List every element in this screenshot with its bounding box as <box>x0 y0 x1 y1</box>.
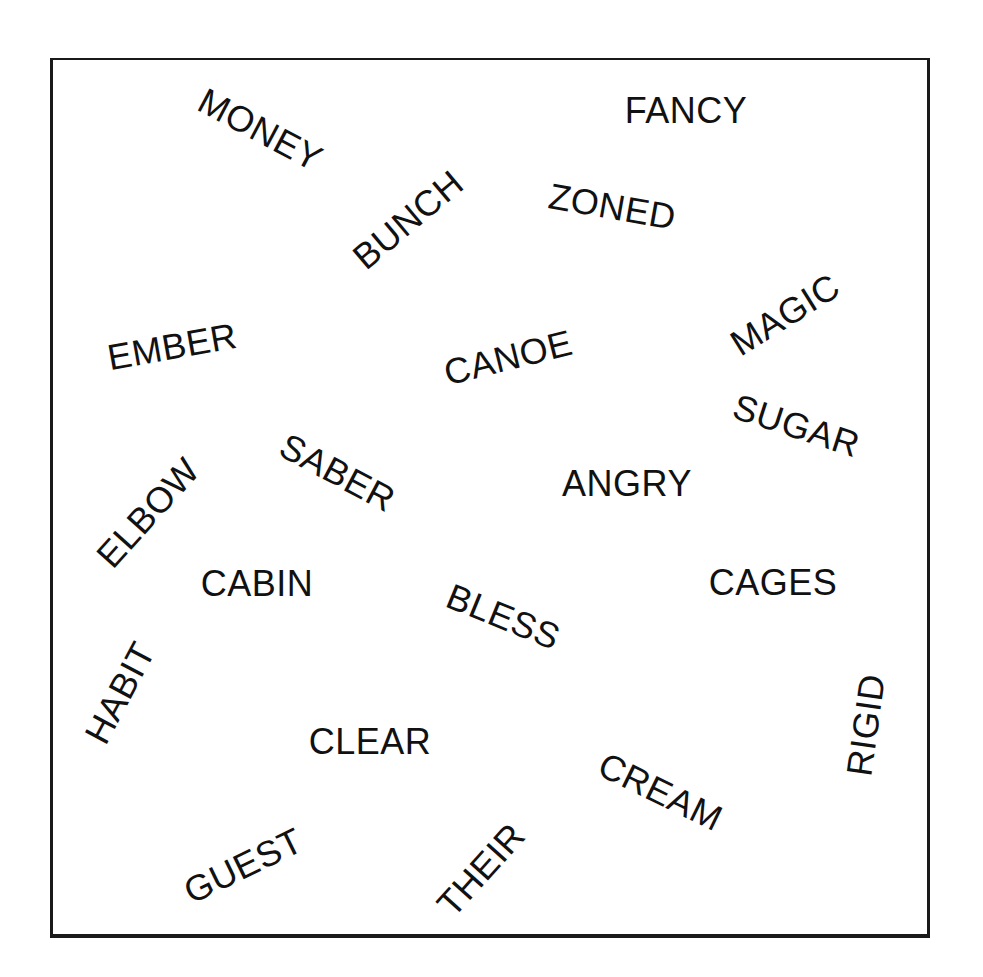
word-cabin: CABIN <box>201 566 314 602</box>
word-angry: ANGRY <box>562 466 692 502</box>
word-fancy: FANCY <box>625 93 748 129</box>
word-clear: CLEAR <box>309 724 432 760</box>
word-cages: CAGES <box>709 565 838 601</box>
